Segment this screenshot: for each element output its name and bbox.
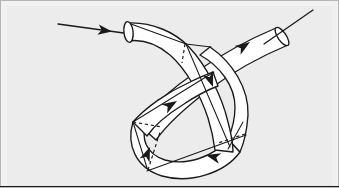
paper-right-highlight	[332, 0, 339, 188]
knot-diagram-svg	[0, 0, 339, 188]
knot-diagram-figure: Knotted tube with directed axis A line-a…	[0, 0, 339, 188]
paper-left-highlight	[0, 0, 7, 188]
